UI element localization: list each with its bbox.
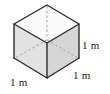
dimension-label-left-edge: 1 m (10, 76, 27, 88)
dimension-label-right-edge: 1 m (82, 39, 99, 51)
cube-figure: 1 m 1 m 1 m (0, 0, 110, 94)
dimension-label-front-edge: 1 m (73, 69, 90, 81)
